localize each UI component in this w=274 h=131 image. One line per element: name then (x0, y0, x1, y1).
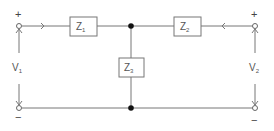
t-network-diagram: Z1 Z2 Z3 + − + − V1 V2 (0, 0, 274, 131)
terminal-1-minus (17, 106, 22, 111)
junction-node-bottom (128, 105, 134, 111)
port1-minus-label: − (15, 111, 21, 123)
port2-minus-label: − (251, 114, 257, 126)
terminal-2-minus (253, 106, 258, 111)
impedance-z1: Z1 (70, 17, 97, 36)
terminal-2-plus (253, 24, 258, 29)
impedance-z2: Z2 (174, 17, 201, 36)
v1-label: V1 (12, 62, 23, 74)
port1-plus-label: + (15, 8, 21, 20)
impedance-z3: Z3 (119, 58, 144, 77)
port2-plus-label: + (251, 8, 257, 20)
terminal-1-plus (17, 24, 22, 29)
v2-label: V2 (249, 62, 260, 74)
junction-node-top (128, 23, 134, 29)
